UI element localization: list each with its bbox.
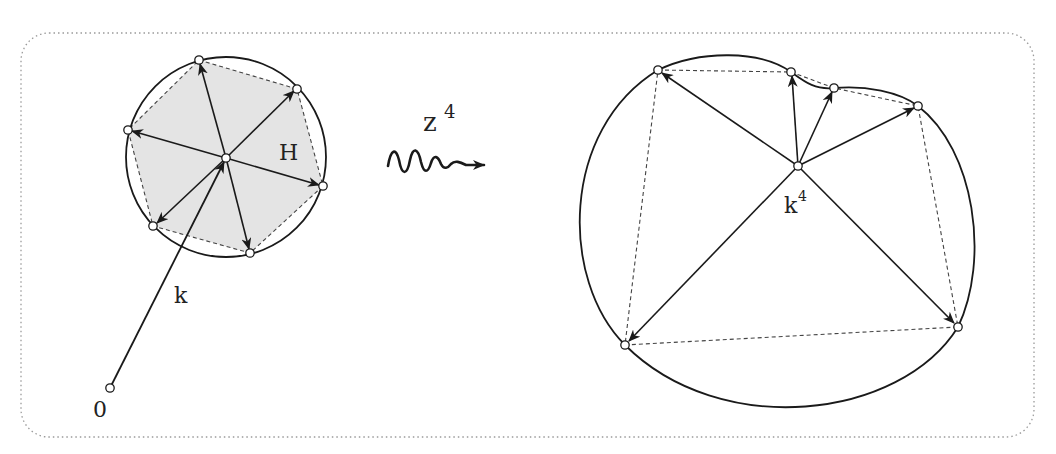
vertex-node [954, 323, 962, 331]
label-k4-exponent: 4 [798, 188, 807, 204]
label-k: k [174, 283, 188, 308]
vertex-node [149, 222, 157, 230]
squiggle-arrow-icon [388, 150, 484, 172]
origin-node [106, 384, 114, 392]
vertex-node [914, 102, 922, 110]
label-H: H [279, 140, 298, 165]
center-node [794, 162, 802, 170]
vertex-node [787, 68, 795, 76]
vertex-node [124, 126, 132, 134]
left-diagram: H k 0 [93, 56, 327, 422]
map-arrow: z 4 [388, 101, 484, 172]
vertex-node [293, 85, 301, 93]
vertex-node [319, 182, 327, 190]
vertex-node [621, 341, 629, 349]
map-exponent: 4 [444, 101, 455, 122]
vertex-node [654, 66, 662, 74]
map-label: z [423, 107, 437, 137]
vertex-node [195, 56, 203, 64]
vertex-node [246, 249, 254, 257]
label-origin: 0 [93, 397, 107, 422]
label-k4: k [784, 193, 798, 218]
right-diagram: k 4 [580, 55, 975, 407]
figure: H k 0 z 4 [0, 0, 1056, 454]
center-node [222, 154, 230, 162]
vertex-node [830, 84, 838, 92]
